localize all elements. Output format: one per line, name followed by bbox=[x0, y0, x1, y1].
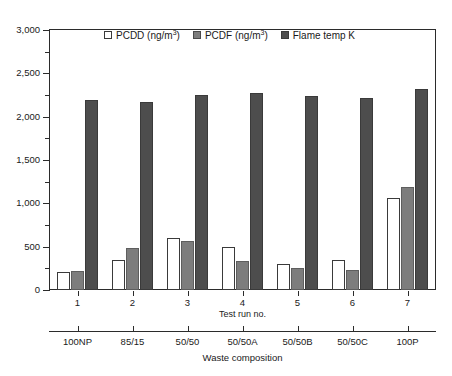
x-tick-primary bbox=[353, 291, 354, 296]
x-tick-label-waste-100NP: 100NP bbox=[48, 336, 108, 347]
y-tick-label: 2,000 bbox=[0, 112, 40, 122]
x-tick-label-run-4: 4 bbox=[223, 297, 263, 308]
x-tick-secondary bbox=[353, 326, 354, 332]
y-tick-label: 1,500 bbox=[0, 155, 40, 165]
x-tick-primary bbox=[298, 291, 299, 296]
bar-pcdd-ng-m3-run-2 bbox=[112, 260, 125, 290]
bar-flame-temp-k-run-6 bbox=[360, 98, 373, 290]
bar-pcdf-ng-m3-run-3 bbox=[181, 241, 194, 290]
x-tick-label-run-1: 1 bbox=[58, 297, 98, 308]
legend-item-pcdd: PCDD (ng/m3) bbox=[104, 29, 180, 41]
legend-item-pcdf: PCDF (ng/m3) bbox=[193, 29, 268, 41]
x-tick-label-run-7: 7 bbox=[388, 297, 428, 308]
x-tick-secondary bbox=[243, 326, 244, 332]
x-tick-secondary bbox=[78, 326, 79, 332]
x-tick-label-run-3: 3 bbox=[168, 297, 208, 308]
bar-flame-temp-k-run-4 bbox=[250, 93, 263, 290]
bar-flame-temp-k-run-5 bbox=[305, 96, 318, 290]
x-tick-secondary bbox=[408, 326, 409, 332]
x-tick-primary bbox=[188, 291, 189, 296]
y-tick-label: 2,500 bbox=[0, 68, 40, 78]
bar-pcdd-ng-m3-run-3 bbox=[167, 238, 180, 290]
legend-swatch-flame-icon bbox=[281, 31, 289, 39]
x-tick-label-waste-50-50B: 50/50B bbox=[268, 336, 328, 347]
bar-pcdd-ng-m3-run-4 bbox=[222, 247, 235, 290]
x-tick-secondary bbox=[188, 326, 189, 332]
y-tick-major bbox=[43, 290, 50, 291]
x-tick-label-run-5: 5 bbox=[278, 297, 318, 308]
x-tick-label-run-6: 6 bbox=[333, 297, 373, 308]
x-tick-label-waste-50-50A: 50/50A bbox=[213, 336, 273, 347]
bar-pcdf-ng-m3-run-6 bbox=[346, 270, 359, 290]
legend-swatch-pcdf-icon bbox=[193, 31, 201, 39]
bar-pcdd-ng-m3-run-6 bbox=[332, 260, 345, 290]
x-axis-primary-title: Test run no. bbox=[49, 309, 436, 319]
chart-legend: PCDD (ng/m3)PCDF (ng/m3)Flame temp K bbox=[104, 29, 355, 41]
legend-label-pcdd: PCDD (ng/m3) bbox=[116, 29, 180, 41]
x-tick-secondary bbox=[133, 326, 134, 332]
bar-pcdf-ng-m3-run-7 bbox=[401, 187, 414, 290]
legend-label-pcdf: PCDF (ng/m3) bbox=[205, 29, 268, 41]
bar-pcdd-ng-m3-run-5 bbox=[277, 264, 290, 290]
legend-item-flame: Flame temp K bbox=[281, 30, 355, 41]
x-tick-label-run-2: 2 bbox=[113, 297, 153, 308]
y-tick-label: 1,000 bbox=[0, 198, 40, 208]
y-tick-label: 0 bbox=[0, 285, 40, 295]
bar-pcdf-ng-m3-run-5 bbox=[291, 268, 304, 290]
x-tick-secondary bbox=[298, 326, 299, 332]
legend-label-flame: Flame temp K bbox=[293, 30, 355, 41]
bar-pcdf-ng-m3-run-4 bbox=[236, 261, 249, 290]
y-tick-label: 500 bbox=[0, 242, 40, 252]
bar-flame-temp-k-run-1 bbox=[85, 100, 98, 290]
bar-flame-temp-k-run-7 bbox=[415, 89, 428, 290]
legend-swatch-pcdd-icon bbox=[104, 31, 112, 39]
y-tick-label: 3,000 bbox=[0, 25, 40, 35]
chart-figure: 05001,0001,5002,0002,5003,000 PCDD (ng/m… bbox=[0, 0, 452, 376]
x-tick-label-waste-85-15: 85/15 bbox=[103, 336, 163, 347]
x-tick-primary bbox=[408, 291, 409, 296]
bar-pcdf-ng-m3-run-1 bbox=[71, 271, 84, 291]
bar-pcdd-ng-m3-run-1 bbox=[57, 272, 70, 290]
x-tick-label-waste-50-50C: 50/50C bbox=[323, 336, 383, 347]
bar-pcdd-ng-m3-run-7 bbox=[387, 198, 400, 290]
x-tick-label-waste-50-50: 50/50 bbox=[158, 336, 218, 347]
x-axis-secondary-title: Waste composition bbox=[49, 352, 436, 363]
bar-flame-temp-k-run-3 bbox=[195, 95, 208, 290]
bars-layer bbox=[50, 30, 435, 290]
x-tick-primary bbox=[78, 291, 79, 296]
x-tick-label-waste-100P: 100P bbox=[378, 336, 438, 347]
x-tick-primary bbox=[133, 291, 134, 296]
x-tick-primary bbox=[243, 291, 244, 296]
bar-pcdf-ng-m3-run-2 bbox=[126, 248, 139, 290]
bar-flame-temp-k-run-2 bbox=[140, 102, 153, 291]
